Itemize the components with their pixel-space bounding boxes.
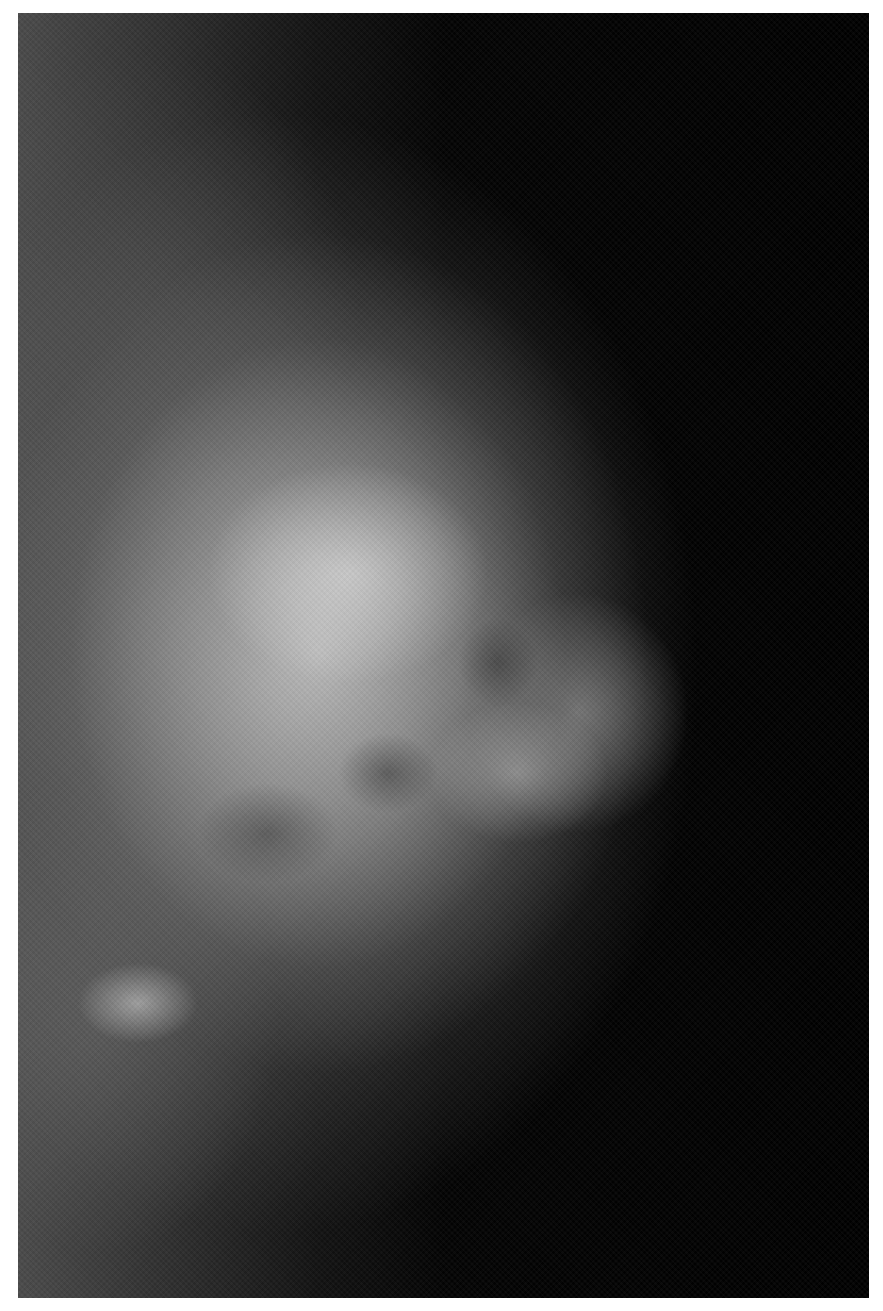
image-grain-texture xyxy=(18,13,869,1298)
mammogram-image xyxy=(18,13,869,1298)
